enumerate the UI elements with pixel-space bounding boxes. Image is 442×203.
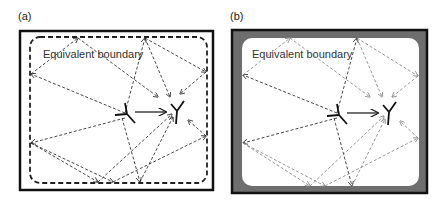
diagram-canvas: Equivalent boundary bbox=[0, 0, 442, 203]
receiver-antenna bbox=[171, 101, 184, 124]
panel-b: Equivalent boundary bbox=[232, 30, 427, 193]
boundary-label: Equivalent boundary bbox=[43, 48, 144, 60]
boundary-label: Equivalent boundary bbox=[252, 48, 353, 60]
panel-a: Equivalent boundary bbox=[20, 31, 213, 190]
